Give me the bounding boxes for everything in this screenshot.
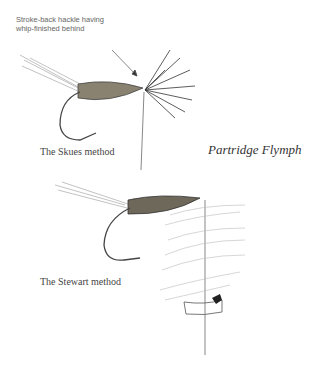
stewart-fly-drawing (55, 182, 245, 355)
skues-fly-drawing (20, 50, 195, 170)
fly-illustration (0, 0, 309, 370)
